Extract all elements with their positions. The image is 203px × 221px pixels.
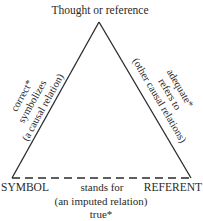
base-description: (an imputed relation) xyxy=(55,195,148,208)
base-relation: stands for xyxy=(80,181,123,193)
referent-label: REFERENT xyxy=(144,181,202,193)
apex-label: Thought or reference xyxy=(51,4,148,17)
symbol-label: SYMBOL xyxy=(1,181,49,193)
semiotic-triangle-diagram: Thought or reference correct* symbolizes… xyxy=(0,0,203,221)
base-qualifier: true* xyxy=(90,208,113,220)
